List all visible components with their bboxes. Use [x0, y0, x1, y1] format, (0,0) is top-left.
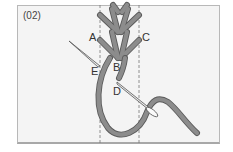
point-label-a: A	[89, 31, 97, 43]
needle-upper-icon	[69, 41, 100, 67]
stitch-diagram: (02) A C B E D	[0, 0, 233, 152]
point-label-d: D	[113, 85, 121, 97]
point-label-b: B	[113, 61, 120, 73]
fishbone-stitches	[100, 5, 139, 58]
point-label-e: E	[91, 65, 98, 77]
point-label-c: C	[142, 31, 150, 43]
step-label: (02)	[23, 10, 41, 21]
